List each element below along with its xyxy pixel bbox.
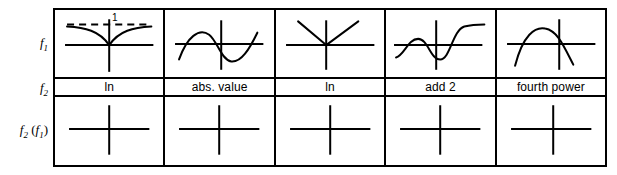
f2f1-cell-1 bbox=[55, 97, 165, 165]
annotation-one: 1 bbox=[112, 12, 118, 23]
composition-table: 1 bbox=[53, 8, 607, 167]
row-label-f2: f2 bbox=[0, 81, 48, 98]
f2-label-cell-1: ln bbox=[55, 79, 165, 95]
graph-cusp-asymptote bbox=[55, 10, 163, 77]
row-label-f1-sub: 1 bbox=[44, 43, 49, 53]
f2-label-3: ln bbox=[325, 80, 335, 94]
f1-cell-1: 1 bbox=[55, 10, 165, 77]
table-row-f1: 1 bbox=[55, 10, 605, 77]
graph-downward-parabola bbox=[497, 10, 605, 77]
row-label-f2-sub: 2 bbox=[44, 88, 49, 98]
row-label-f2-of-f1: f2 (f1) bbox=[0, 123, 48, 140]
graph-empty-axes-1 bbox=[55, 97, 163, 165]
row-label-f2f1-open-paren: ( bbox=[28, 122, 36, 137]
graph-empty-axes-2 bbox=[165, 97, 273, 165]
f2-label-cell-4: add 2 bbox=[386, 79, 496, 95]
f1-cell-5 bbox=[497, 10, 605, 77]
f2-label-1: ln bbox=[104, 80, 114, 94]
f2f1-cell-2 bbox=[165, 97, 275, 165]
graph-wavy-rising bbox=[386, 10, 494, 77]
f2-label-4: add 2 bbox=[425, 80, 456, 94]
f2-label-cell-5: fourth power bbox=[497, 79, 605, 95]
table-row-f2: ln abs. value ln add 2 fourth power bbox=[55, 77, 605, 97]
row-label-f2f1-close-paren: ) bbox=[44, 122, 48, 137]
curve-f1-3 bbox=[298, 21, 358, 45]
f1-cell-2 bbox=[165, 10, 275, 77]
function-composition-figure: f1 f2 f2 (f1) 1 bbox=[0, 0, 617, 175]
f2f1-cell-5 bbox=[497, 97, 605, 165]
graph-empty-axes-3 bbox=[276, 97, 384, 165]
curve-f1-2 bbox=[179, 32, 257, 61]
row-label-f1: f1 bbox=[0, 36, 48, 53]
graph-v-shape bbox=[276, 10, 384, 77]
graph-sine-wave bbox=[165, 10, 273, 77]
f2-label-cell-3: ln bbox=[276, 79, 386, 95]
table-row-f2-of-f1 bbox=[55, 97, 605, 165]
f2f1-cell-3 bbox=[276, 97, 386, 165]
curve-f1-4 bbox=[396, 24, 484, 59]
f2-label-5: fourth power bbox=[517, 80, 585, 94]
f1-cell-4 bbox=[386, 10, 496, 77]
f1-cell-3 bbox=[276, 10, 386, 77]
f2-label-2: abs. value bbox=[192, 80, 248, 94]
curve-f1-5 bbox=[515, 28, 573, 65]
f2f1-cell-4 bbox=[386, 97, 496, 165]
graph-empty-axes-5 bbox=[497, 97, 605, 165]
f2-label-cell-2: abs. value bbox=[165, 79, 275, 95]
graph-empty-axes-4 bbox=[386, 97, 494, 165]
